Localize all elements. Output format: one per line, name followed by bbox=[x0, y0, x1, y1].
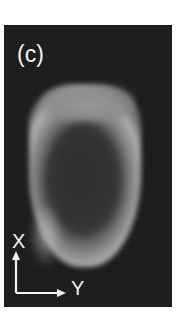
axis-label-x: X bbox=[12, 231, 25, 251]
axis-label-y: Y bbox=[71, 278, 84, 298]
axis-arrows-icon bbox=[4, 25, 172, 307]
image-panel: (c) X Y bbox=[4, 25, 172, 307]
